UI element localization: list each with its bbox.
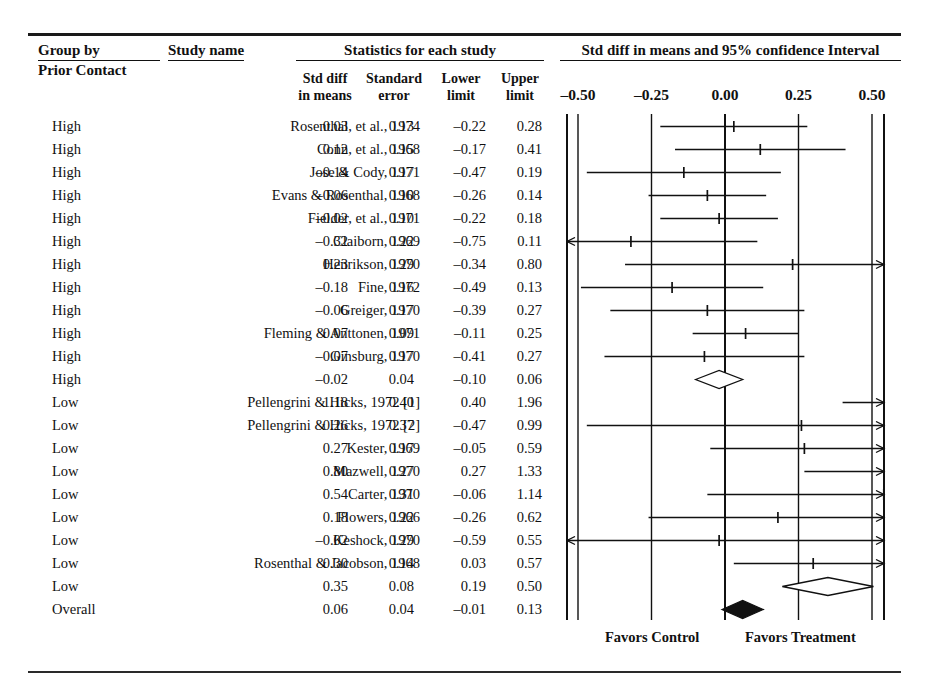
cell-std-diff: –0.14 bbox=[292, 161, 358, 184]
cell-std-diff: 0.26 bbox=[292, 414, 358, 437]
header-lower-limit: Lower limit bbox=[432, 70, 490, 104]
cell-std-diff: –0.06 bbox=[292, 184, 358, 207]
axis-tick-label: –0.25 bbox=[633, 86, 669, 103]
cell-upper-limit: 0.50 bbox=[492, 575, 548, 598]
cell-lower-limit: –0.11 bbox=[432, 322, 490, 345]
cell-std-diff: 0.27 bbox=[292, 437, 358, 460]
header-upper-limit: Upper limit bbox=[492, 70, 548, 104]
cell-std-diff: –0.32 bbox=[292, 230, 358, 253]
cell-lower-limit: 0.03 bbox=[432, 552, 490, 575]
header-std-diff-line2: in means bbox=[292, 87, 358, 104]
summary-diamond bbox=[696, 371, 743, 389]
cell-standard-error: 0.08 bbox=[358, 575, 430, 598]
cell-lower-limit: –0.05 bbox=[432, 437, 490, 460]
cell-std-diff: 0.30 bbox=[292, 552, 358, 575]
header-lower-limit-line2: limit bbox=[432, 87, 490, 104]
cell-standard-error: 0.17 bbox=[358, 161, 430, 184]
cell-lower-limit: –0.34 bbox=[432, 253, 490, 276]
cell-upper-limit: 0.25 bbox=[492, 322, 548, 345]
cell-std-diff: 0.80 bbox=[292, 460, 358, 483]
header-group-by: Group by bbox=[38, 42, 160, 61]
cell-upper-limit: 0.80 bbox=[492, 253, 548, 276]
cell-standard-error: 0.37 bbox=[358, 414, 430, 437]
cell-std-diff: 1.18 bbox=[292, 391, 358, 414]
cell-standard-error: 0.29 bbox=[358, 253, 430, 276]
cell-lower-limit: –0.26 bbox=[432, 506, 490, 529]
header-standard-error: Standard error bbox=[358, 70, 430, 104]
cell-upper-limit: 0.27 bbox=[492, 299, 548, 322]
cell-standard-error: 0.17 bbox=[358, 345, 430, 368]
header-lower-limit-line1: Lower bbox=[432, 70, 490, 87]
cell-lower-limit: 0.19 bbox=[432, 575, 490, 598]
cell-standard-error: 0.29 bbox=[358, 529, 430, 552]
header-prior-contact: Prior Contact bbox=[38, 62, 126, 79]
summary-diamond bbox=[722, 601, 763, 619]
cell-std-diff: 0.54 bbox=[292, 483, 358, 506]
header-upper-limit-line1: Upper bbox=[492, 70, 548, 87]
cell-upper-limit: 1.14 bbox=[492, 483, 548, 506]
cell-upper-limit: 0.13 bbox=[492, 598, 548, 621]
cell-upper-limit: 0.18 bbox=[492, 207, 548, 230]
cell-upper-limit: 0.11 bbox=[492, 230, 548, 253]
cell-standard-error: 0.40 bbox=[358, 391, 430, 414]
cell-upper-limit: 0.19 bbox=[492, 161, 548, 184]
header-statistics: Statistics for each study bbox=[296, 42, 544, 61]
bottom-rule bbox=[28, 671, 901, 673]
cell-std-diff: –0.02 bbox=[292, 368, 358, 391]
cell-standard-error: 0.31 bbox=[358, 483, 430, 506]
cell-lower-limit: –0.47 bbox=[432, 161, 490, 184]
cell-upper-limit: 0.28 bbox=[492, 115, 548, 138]
header-upper-limit-line2: limit bbox=[492, 87, 548, 104]
header-plot-title: Std diff in means and 95% confidence Int… bbox=[560, 42, 901, 61]
axis-tick-label: –0.50 bbox=[560, 86, 596, 103]
cell-std-diff: 0.18 bbox=[292, 506, 358, 529]
cell-upper-limit: 0.41 bbox=[492, 138, 548, 161]
cell-upper-limit: 0.59 bbox=[492, 437, 548, 460]
cell-std-diff: 0.07 bbox=[292, 322, 358, 345]
cell-std-diff: –0.02 bbox=[292, 207, 358, 230]
cell-upper-limit: 0.55 bbox=[492, 529, 548, 552]
cell-upper-limit: 1.33 bbox=[492, 460, 548, 483]
cell-std-diff: –0.02 bbox=[292, 529, 358, 552]
cell-std-diff: –0.18 bbox=[292, 276, 358, 299]
cell-lower-limit: –0.26 bbox=[432, 184, 490, 207]
cell-lower-limit: 0.27 bbox=[432, 460, 490, 483]
header-std-diff: Std diff in means bbox=[292, 70, 358, 104]
cell-upper-limit: 0.57 bbox=[492, 552, 548, 575]
cell-standard-error: 0.10 bbox=[358, 207, 430, 230]
summary-diamond bbox=[782, 578, 873, 596]
cell-upper-limit: 0.06 bbox=[492, 368, 548, 391]
header-standard-error-line2: error bbox=[358, 87, 430, 104]
cell-lower-limit: –0.10 bbox=[432, 368, 490, 391]
header-std-diff-line1: Std diff bbox=[292, 70, 358, 87]
header-standard-error-line1: Standard bbox=[358, 70, 430, 87]
axis-tick-label: 0.00 bbox=[711, 86, 738, 103]
cell-standard-error: 0.22 bbox=[358, 506, 430, 529]
cell-std-diff: 0.35 bbox=[292, 575, 358, 598]
cell-group: Overall bbox=[52, 598, 142, 621]
favors-treatment-label: Favors Treatment bbox=[745, 629, 856, 646]
cell-lower-limit: –0.39 bbox=[432, 299, 490, 322]
header-study-name: Study name bbox=[168, 42, 244, 61]
cell-std-diff: –0.07 bbox=[292, 345, 358, 368]
cell-lower-limit: –0.17 bbox=[432, 138, 490, 161]
cell-lower-limit: –0.41 bbox=[432, 345, 490, 368]
cell-std-diff: 0.06 bbox=[292, 598, 358, 621]
cell-standard-error: 0.17 bbox=[358, 299, 430, 322]
cell-lower-limit: –0.22 bbox=[432, 207, 490, 230]
cell-upper-limit: 0.13 bbox=[492, 276, 548, 299]
cell-lower-limit: –0.75 bbox=[432, 230, 490, 253]
cell-group: Low bbox=[52, 575, 142, 598]
cell-standard-error: 0.14 bbox=[358, 552, 430, 575]
favors-control-label: Favors Control bbox=[605, 629, 699, 646]
cell-standard-error: 0.10 bbox=[358, 184, 430, 207]
cell-upper-limit: 0.99 bbox=[492, 414, 548, 437]
cell-lower-limit: –0.47 bbox=[432, 414, 490, 437]
cell-std-diff: 0.12 bbox=[292, 138, 358, 161]
cell-upper-limit: 0.27 bbox=[492, 345, 548, 368]
cell-lower-limit: –0.06 bbox=[432, 483, 490, 506]
cell-standard-error: 0.22 bbox=[358, 230, 430, 253]
cell-lower-limit: –0.22 bbox=[432, 115, 490, 138]
cell-upper-limit: 0.14 bbox=[492, 184, 548, 207]
cell-lower-limit: –0.59 bbox=[432, 529, 490, 552]
